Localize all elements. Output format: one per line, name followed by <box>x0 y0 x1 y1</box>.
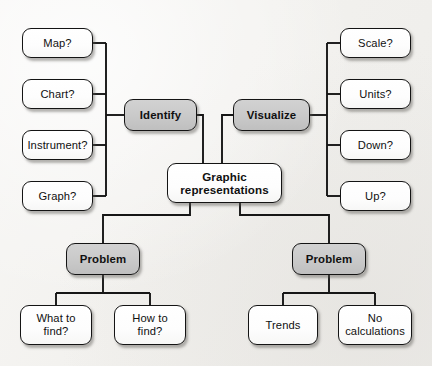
diagram-canvas: Map? Chart? Instrument? Graph? Scale? Un… <box>0 0 432 366</box>
node-map-label: Map? <box>39 37 75 50</box>
node-problem-left-label: Problem <box>76 253 130 266</box>
node-graph-label: Graph? <box>35 190 81 203</box>
node-no-calculations-line1: No <box>364 312 387 325</box>
node-scale[interactable]: Scale? <box>340 28 411 58</box>
node-identify[interactable]: Identify <box>124 99 197 131</box>
node-trends-label: Trends <box>261 319 304 332</box>
node-instrument-label: Instrument? <box>23 139 91 152</box>
node-up[interactable]: Up? <box>340 181 411 211</box>
node-units-label: Units? <box>355 88 395 101</box>
edge-identify-to-hub <box>197 115 203 163</box>
node-what-to-find-line2: find? <box>40 325 73 338</box>
node-map[interactable]: Map? <box>22 28 93 58</box>
edge-visualize-to-hub <box>222 115 233 163</box>
node-down-label: Down? <box>354 139 397 152</box>
node-how-to-find-line1: How to <box>128 312 171 325</box>
node-down[interactable]: Down? <box>340 130 411 160</box>
node-instrument[interactable]: Instrument? <box>22 130 93 160</box>
edge-hub-to-problem-right <box>240 203 329 243</box>
hub-label-line2: representations <box>176 183 272 196</box>
node-identify-label: Identify <box>136 109 185 122</box>
node-problem-right-label: Problem <box>302 253 356 266</box>
node-problem-right[interactable]: Problem <box>292 243 366 275</box>
node-what-to-find-line1: What to <box>32 312 79 325</box>
edge-hub-to-problem-left <box>103 203 190 243</box>
node-no-calculations-line2: calculations <box>341 325 409 338</box>
node-chart-label: Chart? <box>36 88 78 101</box>
node-up-label: Up? <box>361 190 390 203</box>
node-what-to-find[interactable]: What to find? <box>20 305 92 345</box>
node-graph[interactable]: Graph? <box>22 181 93 211</box>
node-visualize[interactable]: Visualize <box>233 99 310 131</box>
node-problem-left[interactable]: Problem <box>66 243 140 275</box>
node-how-to-find-line2: find? <box>134 325 167 338</box>
node-no-calculations[interactable]: No calculations <box>338 305 412 345</box>
node-how-to-find[interactable]: How to find? <box>114 305 186 345</box>
node-graphic-representations[interactable]: Graphic representations <box>167 163 282 203</box>
node-chart[interactable]: Chart? <box>22 79 93 109</box>
node-units[interactable]: Units? <box>340 79 411 109</box>
node-scale-label: Scale? <box>354 37 397 50</box>
node-trends[interactable]: Trends <box>248 305 318 345</box>
hub-label-line1: Graphic <box>198 170 251 183</box>
node-visualize-label: Visualize <box>243 109 300 122</box>
